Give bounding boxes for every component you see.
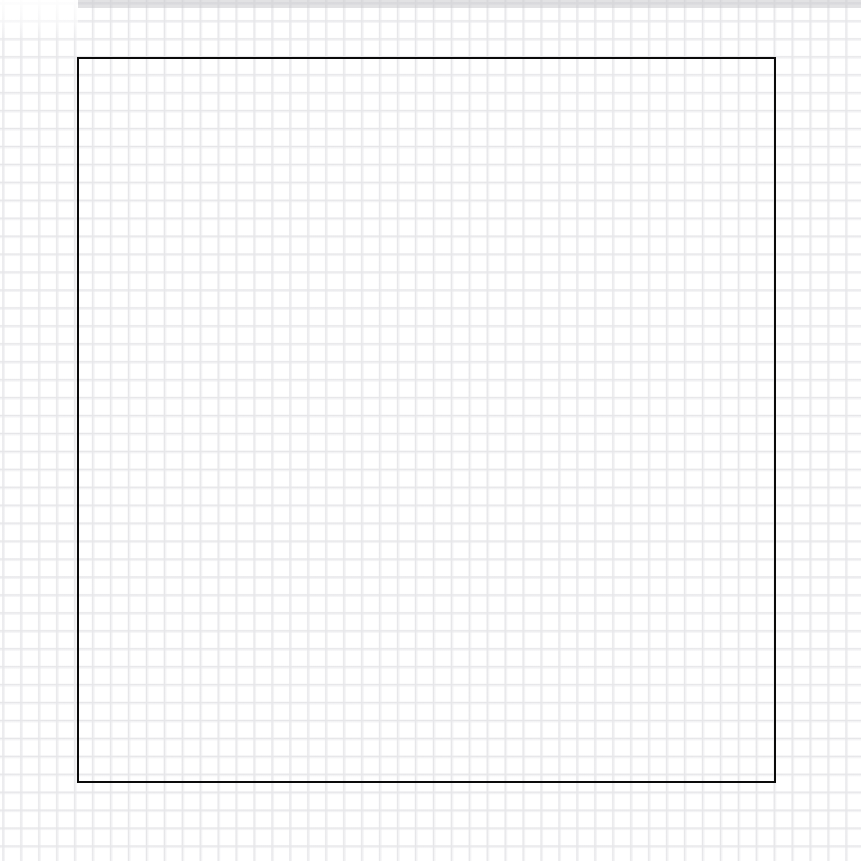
square-outline — [77, 57, 776, 783]
drawing-canvas — [0, 0, 861, 861]
